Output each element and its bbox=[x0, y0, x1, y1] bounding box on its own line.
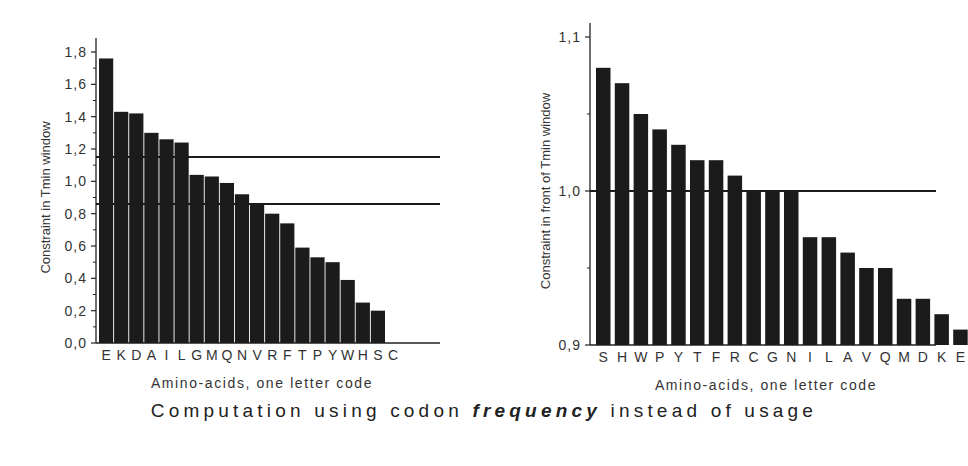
y-tick-label: 1,8 bbox=[65, 44, 87, 60]
bar-N bbox=[235, 194, 249, 343]
x-tick-label: H bbox=[358, 347, 368, 363]
bar-K bbox=[114, 112, 128, 343]
bar-T bbox=[690, 160, 705, 345]
x-tick-label: C bbox=[749, 349, 759, 365]
x-axis-label: Amino-acids, one letter code bbox=[655, 377, 877, 393]
bar-P bbox=[652, 129, 667, 345]
y-tick-label: 0,8 bbox=[65, 206, 87, 222]
x-tick-label: E bbox=[956, 349, 965, 365]
y-tick-label: 0,0 bbox=[65, 335, 87, 351]
bar-Q bbox=[878, 268, 893, 345]
bar-R bbox=[728, 176, 743, 345]
bar-F bbox=[280, 223, 294, 343]
x-tick-label: L bbox=[178, 347, 186, 363]
left-bar-chart: 0,00,20,40,60,81,01,21,41,61,8EKDAILGMQN… bbox=[0, 0, 470, 400]
x-tick-label: I bbox=[165, 347, 169, 363]
x-tick-label: R bbox=[267, 347, 277, 363]
x-tick-label: F bbox=[712, 349, 721, 365]
y-tick-label: 0,9 bbox=[559, 337, 581, 353]
x-tick-label: I bbox=[808, 349, 812, 365]
bar-S bbox=[596, 68, 611, 345]
bar-H bbox=[356, 303, 370, 343]
x-tick-label: Y bbox=[674, 349, 684, 365]
y-tick-label: 1,0 bbox=[559, 183, 581, 199]
right-bar-chart: 0,91,01,1SHWPYTFRCGNILAVQMDKEAmino-acids… bbox=[480, 0, 968, 400]
x-tick-label: Y bbox=[328, 347, 338, 363]
x-tick-label: Q bbox=[221, 347, 232, 363]
bar-E bbox=[953, 330, 968, 345]
x-tick-label: L bbox=[825, 349, 833, 365]
x-tick-label: G bbox=[191, 347, 202, 363]
right-chart-svg: 0,91,01,1SHWPYTFRCGNILAVQMDKEAmino-acids… bbox=[480, 0, 968, 400]
x-tick-label: K bbox=[937, 349, 947, 365]
caption-prefix: Computation using codon bbox=[151, 400, 473, 421]
bar-I bbox=[159, 139, 173, 343]
bar-D bbox=[129, 113, 143, 343]
x-tick-label: D bbox=[131, 347, 141, 363]
x-tick-label: F bbox=[283, 347, 292, 363]
x-tick-label: H bbox=[617, 349, 627, 365]
bar-R bbox=[265, 214, 279, 343]
bar-Q bbox=[220, 183, 234, 343]
x-tick-label: W bbox=[634, 349, 648, 365]
x-tick-label: V bbox=[252, 347, 262, 363]
caption-emphasis: frequency bbox=[472, 400, 601, 421]
bar-L bbox=[175, 143, 189, 343]
bar-Y bbox=[326, 262, 340, 343]
figure-caption: Computation using codon frequency instea… bbox=[0, 400, 968, 422]
bar-P bbox=[310, 257, 324, 343]
y-tick-label: 1,6 bbox=[65, 76, 87, 92]
bar-M bbox=[897, 299, 912, 345]
x-tick-label: G bbox=[767, 349, 778, 365]
y-tick-label: 1,0 bbox=[65, 173, 87, 189]
x-tick-label: M bbox=[898, 349, 910, 365]
y-axis-label: Constraint in Tmin window bbox=[38, 121, 53, 274]
bar-D bbox=[916, 299, 931, 345]
bar-W bbox=[341, 280, 355, 343]
x-tick-label: E bbox=[101, 347, 110, 363]
x-tick-label: P bbox=[655, 349, 664, 365]
bar-S bbox=[371, 311, 385, 343]
bar-I bbox=[803, 237, 818, 345]
bar-N bbox=[784, 191, 799, 345]
bar-E bbox=[99, 58, 113, 343]
bar-A bbox=[840, 253, 855, 345]
x-tick-label: T bbox=[693, 349, 702, 365]
bar-F bbox=[709, 160, 724, 345]
bar-H bbox=[615, 83, 630, 345]
y-tick-label: 0,4 bbox=[65, 270, 87, 286]
bar-T bbox=[295, 248, 309, 343]
x-tick-label: S bbox=[373, 347, 382, 363]
x-tick-label: N bbox=[786, 349, 796, 365]
x-tick-label: C bbox=[388, 347, 398, 363]
x-tick-label: M bbox=[206, 347, 218, 363]
x-tick-label: T bbox=[298, 347, 307, 363]
x-tick-label: V bbox=[862, 349, 872, 365]
x-tick-label: S bbox=[599, 349, 608, 365]
bar-A bbox=[144, 133, 158, 343]
x-tick-label: K bbox=[117, 347, 127, 363]
bar-M bbox=[205, 176, 219, 343]
y-axis-label: Constraint in front of Tmin window bbox=[538, 92, 553, 289]
x-tick-label: N bbox=[237, 347, 247, 363]
bar-K bbox=[934, 314, 949, 345]
bar-V bbox=[250, 204, 264, 343]
x-tick-label: W bbox=[341, 347, 355, 363]
y-tick-label: 0,2 bbox=[65, 303, 87, 319]
caption-suffix: instead of usage bbox=[601, 400, 817, 421]
bar-V bbox=[859, 268, 874, 345]
bar-Y bbox=[671, 145, 686, 345]
y-tick-label: 0,6 bbox=[65, 238, 87, 254]
x-tick-label: R bbox=[730, 349, 740, 365]
y-tick-label: 1,1 bbox=[559, 29, 581, 45]
bar-C bbox=[746, 191, 761, 345]
x-tick-label: P bbox=[313, 347, 322, 363]
y-tick-label: 1,4 bbox=[65, 109, 87, 125]
x-axis-label: Amino-acids, one letter code bbox=[151, 375, 373, 391]
x-tick-label: A bbox=[843, 349, 853, 365]
bar-G bbox=[765, 191, 780, 345]
x-tick-label: D bbox=[918, 349, 928, 365]
bar-L bbox=[822, 237, 837, 345]
x-tick-label: A bbox=[147, 347, 157, 363]
x-tick-label: Q bbox=[880, 349, 891, 365]
